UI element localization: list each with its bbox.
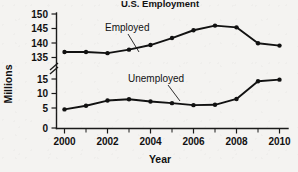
- y-tick-label-135: 135: [31, 52, 48, 63]
- chart-title: U.S. Employment: [121, 0, 200, 9]
- y-axis-ticks-upper: [52, 14, 57, 58]
- data-point: [277, 77, 281, 81]
- data-point: [105, 51, 109, 55]
- x-axis: 2000 2002 2004 2006 2008 2010: [53, 129, 291, 148]
- data-point: [191, 103, 195, 107]
- y-tick-label-10: 10: [37, 88, 49, 99]
- chart-canvas: U.S. Employment 150 145 140: [0, 0, 298, 172]
- data-point: [170, 101, 174, 105]
- employment-line-chart: U.S. Employment 150 145 140: [0, 0, 298, 172]
- y-axis-ticks-lower: [52, 79, 57, 128]
- data-point: [213, 103, 217, 107]
- data-point: [148, 99, 152, 103]
- data-point: [191, 28, 195, 32]
- x-tick-label-2000: 2000: [53, 136, 76, 147]
- data-point: [84, 104, 88, 108]
- y-axis: 150 145 140 135 15 10 5 0: [31, 9, 58, 134]
- data-point: [170, 36, 174, 40]
- annotation-unemployed: Unemployed: [128, 73, 184, 101]
- data-point: [234, 97, 238, 101]
- y-tick-label-0: 0: [42, 123, 48, 134]
- data-point: [84, 50, 88, 54]
- x-tick-label-2010: 2010: [268, 136, 291, 147]
- y-tick-label-150: 150: [31, 9, 48, 20]
- data-point: [277, 43, 281, 47]
- y-tick-label-145: 145: [31, 23, 48, 34]
- data-point: [127, 47, 131, 51]
- x-tick-label-2002: 2002: [96, 136, 119, 147]
- series-employed: [62, 23, 281, 55]
- x-tick-label-2008: 2008: [225, 136, 248, 147]
- annotation-unemployed-leader: [168, 85, 180, 101]
- data-point: [256, 41, 260, 45]
- x-tick-label-2004: 2004: [139, 136, 162, 147]
- y-axis-title: Millions: [2, 64, 14, 103]
- data-point: [62, 50, 66, 54]
- annotation-unemployed-label: Unemployed: [128, 73, 184, 84]
- data-point: [62, 107, 66, 111]
- x-axis-title: Year: [149, 153, 171, 165]
- annotation-employed-label: Employed: [105, 22, 149, 33]
- y-tick-label-5: 5: [42, 103, 48, 114]
- y-tick-label-15: 15: [37, 74, 49, 85]
- data-point: [234, 25, 238, 29]
- x-axis-ticks: [65, 129, 280, 134]
- data-point: [256, 79, 260, 83]
- data-point: [105, 98, 109, 102]
- data-point: [213, 23, 217, 27]
- y-tick-label-140: 140: [31, 38, 48, 49]
- x-tick-label-2006: 2006: [182, 136, 205, 147]
- data-point: [127, 97, 131, 101]
- data-point: [148, 43, 152, 47]
